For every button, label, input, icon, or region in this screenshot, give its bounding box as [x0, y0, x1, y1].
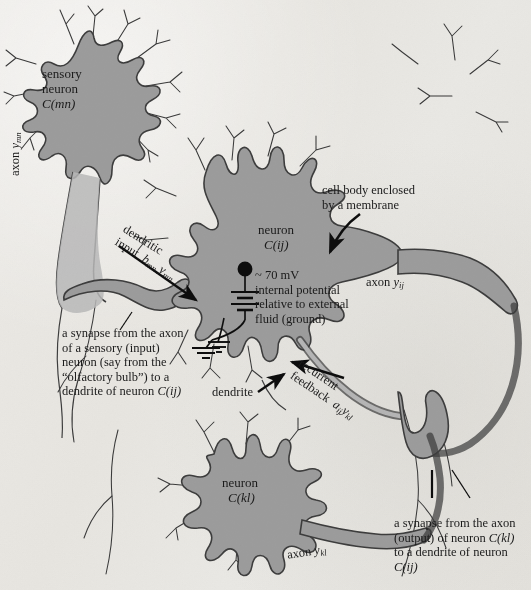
figure-canvas: sensory neuron C(mn) axon ymn dendritic … — [0, 0, 531, 590]
scan-grain-overlay — [0, 0, 531, 590]
